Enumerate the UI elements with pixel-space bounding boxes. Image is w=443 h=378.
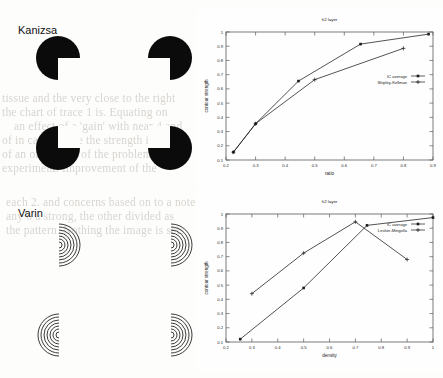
inducer-notch [58, 126, 80, 148]
x-axis-tick-label: 0.5 [301, 345, 307, 350]
y-axis-tick-label: 0.4 [217, 297, 223, 302]
x-axis-tick-label: 0.5 [312, 163, 318, 168]
bleed-text-line: experiment. Improvement of the [2, 162, 157, 174]
y-axis-tick-label: 0.7 [217, 254, 223, 259]
kanizsa-inducer-top-left [36, 36, 80, 80]
bleed-text-line: of an of the sets of the problem of [2, 148, 165, 160]
x-axis-tick-label: 0.4 [282, 163, 288, 168]
y-axis-tick-label: 0.1 [217, 158, 223, 163]
y-axis-tick-label: 1 [221, 212, 224, 217]
kanizsa-inducer-bottom-right [148, 126, 192, 170]
y-axis-tick-label: 0.3 [217, 311, 223, 316]
y-axis-tick-label: 0.6 [217, 268, 223, 273]
x-axis-tick-label: 0.2 [223, 345, 229, 350]
series-2 [231, 46, 405, 154]
chart-title: h2 layer [322, 17, 338, 22]
figure-page: tissue and the very close to the rightth… [0, 0, 443, 378]
kanizsa-inducer-bottom-left [36, 126, 80, 170]
bottom-chart-canvas: h2 layer0.10.20.30.40.50.60.70.80.910.20… [196, 192, 443, 372]
legend-entry-label: IC average [387, 74, 408, 79]
y-axis-tick-label: 0.2 [217, 325, 223, 330]
y-axis-tick-label: 0.3 [217, 129, 223, 134]
inducer-notch [148, 126, 170, 148]
varin-label: Varin [18, 207, 43, 219]
plot-frame [226, 214, 433, 342]
kanizsa-inducer-top-right [148, 36, 192, 80]
inducer-notch [58, 58, 80, 80]
varin-inducer-top-left [36, 222, 82, 268]
top-chart-canvas: h2 layer0.10.20.30.40.50.60.70.80.910.20… [196, 10, 443, 190]
y-axis-label: contour strength [204, 79, 209, 113]
y-axis-tick-label: 0.8 [217, 58, 223, 63]
plot-frame [226, 32, 433, 160]
series-1 [232, 33, 430, 154]
y-axis-tick-label: 0.9 [217, 44, 223, 49]
y-axis-tick-label: 0.1 [217, 340, 223, 345]
varin-inducer-bottom-right [148, 312, 194, 358]
kanizsa-label: Kanizsa [18, 24, 57, 36]
series-1 [239, 216, 434, 340]
y-axis-tick-label: 0.9 [217, 226, 223, 231]
chart-legend: IC averageShipley-Kellman [377, 74, 425, 85]
y-axis-tick-label: 0.7 [217, 72, 223, 77]
y-axis-tick-label: 0.6 [217, 86, 223, 91]
y-axis-tick-label: 0.5 [217, 101, 223, 106]
inducer-notch [148, 58, 170, 80]
varin-inducer-top-right [148, 222, 194, 268]
top-chart: h2 layer0.10.20.30.40.50.60.70.80.910.20… [196, 10, 443, 190]
x-axis-tick-label: 0.3 [253, 163, 259, 168]
x-axis-tick-label: 0.7 [371, 163, 377, 168]
x-axis-label: density [322, 353, 337, 358]
y-axis-label: contour strength [204, 261, 209, 295]
bleed-text-line: the chart of trace 1 is. Equating on [2, 106, 168, 118]
x-axis-tick-label: 0.9 [430, 163, 436, 168]
y-axis-tick-label: 0.2 [217, 143, 223, 148]
legend-entry-label: Shipley-Kellman [377, 80, 407, 85]
x-axis-tick-label: 0.6 [341, 163, 347, 168]
legend-entry-label: IC average [387, 222, 408, 227]
legend-entry-label: Lesher-Mingolla [378, 228, 408, 233]
x-axis-tick-label: 0.7 [352, 345, 358, 350]
x-axis-tick-label: 0.4 [275, 345, 281, 350]
x-axis-tick-label: 0.2 [223, 163, 229, 168]
x-axis-tick-label: 0.6 [327, 345, 333, 350]
bottom-chart: h2 layer0.10.20.30.40.50.60.70.80.910.20… [196, 192, 443, 372]
x-axis-tick-label: 0.3 [249, 345, 255, 350]
y-axis-tick-label: 0.8 [217, 240, 223, 245]
bleed-text-line: tissue and the very close to the right [2, 92, 175, 104]
varin-inducer-bottom-left [36, 312, 82, 358]
y-axis-tick-label: 1 [221, 30, 224, 35]
chart-title: h2 layer [322, 199, 338, 204]
x-axis-label: ratio [325, 171, 334, 176]
x-axis-tick-label: 0.8 [401, 163, 407, 168]
y-axis-tick-label: 0.4 [217, 115, 223, 120]
x-axis-tick-label: 1 [432, 345, 435, 350]
x-axis-tick-label: 0.9 [404, 345, 410, 350]
y-axis-tick-label: 0.5 [217, 283, 223, 288]
x-axis-tick-label: 0.8 [378, 345, 384, 350]
